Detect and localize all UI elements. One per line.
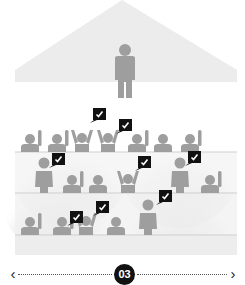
pager-track-left (18, 274, 112, 275)
pager-track-right (137, 274, 227, 275)
tier-2 (15, 193, 237, 235)
base-slab (15, 235, 237, 255)
pager: ‹ 03 › (0, 262, 245, 284)
page-number-badge: 03 (114, 264, 135, 285)
chevron-right-icon[interactable]: › (226, 265, 240, 283)
